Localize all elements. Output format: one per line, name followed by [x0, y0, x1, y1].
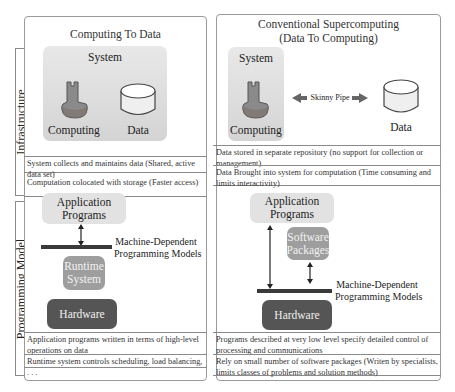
left-panel-title: Computing To Data — [24, 27, 207, 41]
skinny-pipe-label: Skinny Pipe — [306, 93, 354, 102]
right-infra-row-1: Data stored in separate repository (no s… — [213, 145, 441, 165]
left-prog-row-1: Application programs written in terms of… — [24, 332, 207, 354]
right-data-label: Data — [381, 121, 421, 133]
right-prog-row-1: Programs described at very low level spe… — [213, 332, 441, 354]
right-application-programs-box: Application Programs — [250, 193, 334, 223]
left-machine-dependent-bar — [41, 245, 112, 249]
right-system-label: System — [228, 52, 284, 64]
computing-icon — [58, 80, 92, 120]
software-packages-box: Software Packages — [287, 227, 329, 260]
left-data-label: Data — [118, 124, 158, 136]
double-arrow-icon — [305, 262, 315, 284]
left-hardware-box: Hardware — [47, 299, 117, 329]
right-computing-label: Computing — [228, 124, 284, 136]
left-infra-row-1: System collects and maintains data (Shar… — [24, 156, 207, 173]
right-panel-title: Conventional Supercomputing (Data To Com… — [216, 17, 441, 45]
left-prog-row-2: Runtime system controls scheduling, load… — [24, 354, 207, 368]
right-mdpm-label: Machine-Dependent Programming Models — [335, 279, 419, 303]
left-computing-label: Computing — [46, 124, 102, 136]
right-infra-row-2: Data Brought into system for computation… — [213, 165, 441, 186]
data-cylinder-icon — [118, 82, 158, 118]
left-application-programs-box: Application Programs — [42, 193, 126, 224]
right-machine-dependent-bar — [257, 289, 332, 293]
double-arrow-icon — [265, 225, 275, 289]
right-hardware-box: Hardware — [262, 300, 332, 330]
left-runtime-system-box: Runtime System — [63, 256, 105, 290]
data-cylinder-icon — [382, 78, 420, 116]
right-prog-row-2: Rely on small number of software package… — [213, 354, 441, 376]
left-mdpm-label: Machine-Dependent Programming Models — [114, 236, 198, 260]
double-arrow-icon — [76, 224, 86, 246]
computing-icon — [239, 80, 273, 120]
left-system-label: System — [43, 51, 167, 63]
